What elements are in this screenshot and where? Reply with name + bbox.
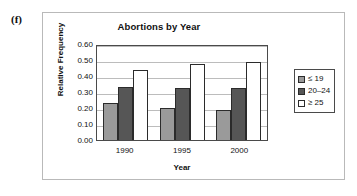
x-axis-tick-label: 1990 <box>96 146 153 155</box>
bar <box>246 62 261 140</box>
bar <box>160 108 175 140</box>
chart-container: Abortions by Year Relative Frequency 0.6… <box>42 12 345 180</box>
legend-item-label: ≥ 25 <box>308 99 324 107</box>
x-axis-tick-label: 1995 <box>153 146 210 155</box>
bar-group <box>97 46 154 140</box>
bar <box>133 70 148 140</box>
legend-item-label: ≤ 19 <box>308 75 324 83</box>
legend-swatch-icon <box>298 100 305 107</box>
bar <box>216 110 231 140</box>
chart-legend: ≤ 1920–24≥ 25 <box>294 69 335 113</box>
y-axis-tick-labels: 0.600.500.400.300.200.100.00 <box>64 45 93 141</box>
y-axis-tick-label: 0.50 <box>64 57 93 65</box>
x-axis-title: Year <box>96 163 268 172</box>
x-axis-tick-label: 2000 <box>211 146 268 155</box>
y-axis-tick-label: 0.00 <box>64 137 93 145</box>
legend-item: 20–24 <box>298 85 330 97</box>
y-axis-tick-label: 0.40 <box>64 73 93 81</box>
y-axis-tick-label: 0.30 <box>64 89 93 97</box>
legend-item: ≤ 19 <box>298 73 330 85</box>
y-axis-tick-label: 0.20 <box>64 105 93 113</box>
bar <box>103 103 118 140</box>
legend-item-label: 20–24 <box>308 87 330 95</box>
legend-swatch-icon <box>298 76 305 83</box>
chart-title: Abortions by Year <box>43 21 275 32</box>
y-axis-tick-label: 0.10 <box>64 121 93 129</box>
x-axis-tick-labels: 199019952000 <box>96 146 268 155</box>
bar <box>175 88 190 140</box>
bar-series-layer <box>97 46 267 140</box>
bar <box>190 64 205 140</box>
legend-item: ≥ 25 <box>298 97 330 109</box>
bar-group <box>210 46 267 140</box>
bar <box>118 87 133 140</box>
y-axis-tick-label: 0.60 <box>64 41 93 49</box>
bar-group <box>154 46 211 140</box>
plot-area <box>96 45 268 141</box>
figure-part-label: (f) <box>11 14 22 25</box>
bar <box>231 88 246 140</box>
legend-swatch-icon <box>298 88 305 95</box>
